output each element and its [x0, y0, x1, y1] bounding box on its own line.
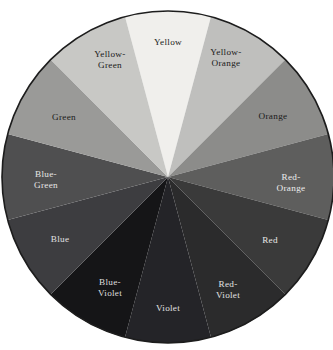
color-wheel-slices [2, 11, 333, 343]
color-wheel-svg: YellowYellow-OrangeOrangeRed-OrangeRedRe… [0, 0, 333, 350]
color-wheel-figure: YellowYellow-OrangeOrangeRed-OrangeRedRe… [0, 0, 333, 350]
